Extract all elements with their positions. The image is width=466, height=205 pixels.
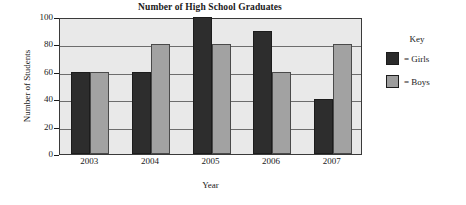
y-tick-label: 20: [27, 123, 53, 132]
x-tick-label: 2005: [180, 157, 241, 166]
y-tick-label: 0: [27, 150, 53, 159]
y-tick-mark: [54, 128, 59, 129]
legend-item-boys: = Boys: [386, 75, 462, 88]
bar-girls-2007: [314, 99, 333, 154]
bars-layer: [60, 19, 361, 154]
y-tick-mark: [54, 18, 59, 19]
bar-boys-2007: [333, 44, 352, 154]
y-tick-label: 80: [27, 40, 53, 49]
legend-label: = Boys: [404, 77, 430, 87]
y-tick-mark: [54, 155, 59, 156]
y-tick-mark: [54, 45, 59, 46]
legend-label: = Girls: [404, 54, 429, 64]
y-tick-label: 60: [27, 68, 53, 77]
bar-boys-2004: [151, 44, 170, 154]
bar-boys-2003: [90, 72, 109, 154]
chart-screenshot: Number of High School Graduates Number o…: [0, 0, 466, 205]
chart-title: Number of High School Graduates: [60, 2, 360, 12]
x-tick-label: 2006: [241, 157, 302, 166]
legend-swatch-boys-icon: [386, 75, 399, 88]
bar-boys-2006: [272, 72, 291, 154]
y-tick-mark: [54, 100, 59, 101]
bar-girls-2004: [132, 72, 151, 154]
legend-title: Key: [388, 34, 446, 44]
x-tick-label: 2003: [59, 157, 120, 166]
x-tick-label: 2004: [120, 157, 181, 166]
bar-boys-2005: [212, 44, 231, 154]
bar-girls-2006: [253, 31, 272, 154]
legend-entries: = Girls= Boys: [386, 52, 462, 88]
legend-swatch-girls-icon: [386, 52, 399, 65]
x-axis-title: Year: [59, 180, 362, 190]
y-tick-label: 40: [27, 95, 53, 104]
x-axis-tick-labels: 20032004200520062007: [59, 157, 362, 171]
legend: Key = Girls= Boys: [386, 34, 462, 98]
y-tick-label: 100: [27, 13, 53, 22]
bar-girls-2005: [193, 17, 212, 154]
y-axis-tick-labels: 020406080100: [26, 0, 53, 205]
plot-area: [59, 18, 362, 155]
legend-item-girls: = Girls: [386, 52, 462, 65]
x-tick-label: 2007: [301, 157, 362, 166]
bar-girls-2003: [71, 72, 90, 154]
y-tick-mark: [54, 73, 59, 74]
